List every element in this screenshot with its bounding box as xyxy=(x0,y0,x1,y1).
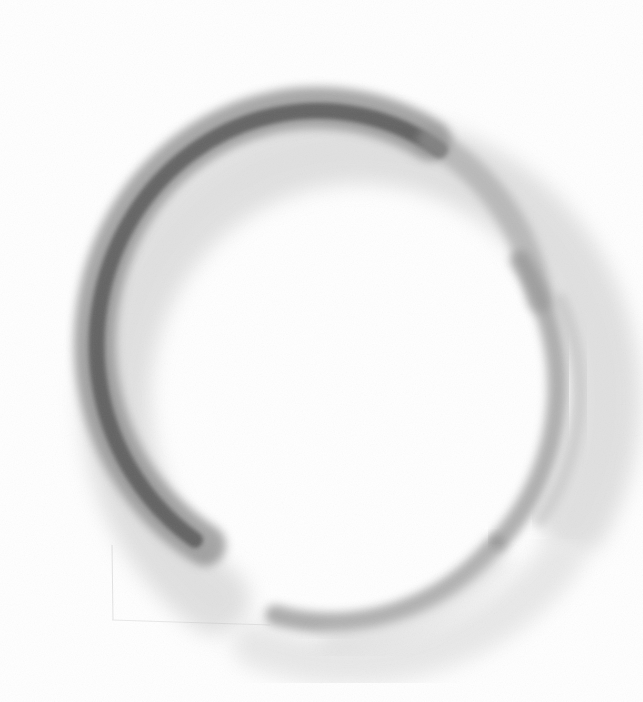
artwork-canvas xyxy=(0,0,643,702)
enso-drawing xyxy=(0,0,643,702)
paper-grain xyxy=(0,0,643,702)
